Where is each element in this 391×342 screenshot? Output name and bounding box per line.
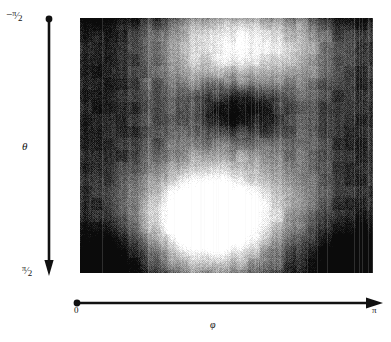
theta-end-fraction: π⁄2 xyxy=(22,266,32,276)
heatmap-canvas xyxy=(80,18,373,273)
theta-axis-symbol-label: θ xyxy=(22,141,27,152)
phi-axis-end-label: π xyxy=(372,306,377,315)
phi-axis-start-label: 0 xyxy=(74,306,79,315)
theta-axis xyxy=(44,14,54,278)
theta-end-denominator: 2 xyxy=(28,268,33,278)
theta-axis-start-label: −π⁄2 xyxy=(6,9,22,20)
theta-start-fraction: π⁄2 xyxy=(12,11,22,21)
theta-start-denominator: 2 xyxy=(18,13,23,23)
phi-axis xyxy=(70,294,385,312)
theta-axis-arrowhead xyxy=(44,260,53,276)
heatmap-figure: −π⁄2 π⁄2 θ 0 π φ xyxy=(0,0,391,342)
theta-axis-end-label: π⁄2 xyxy=(22,264,32,275)
heatmap-plot-area xyxy=(80,18,373,273)
theta-end-numerator: π xyxy=(22,264,26,273)
phi-axis-symbol-label: φ xyxy=(210,320,216,330)
theta-start-numerator: π xyxy=(12,9,16,18)
